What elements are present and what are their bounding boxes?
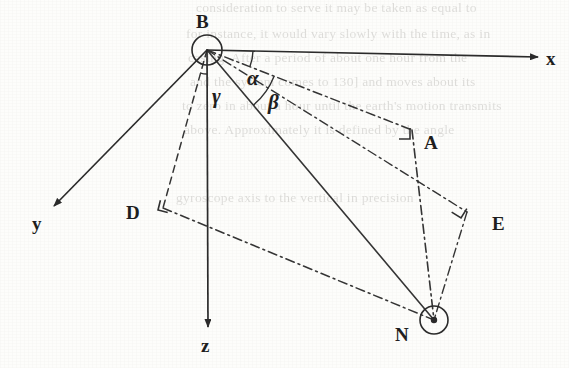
- point-label-a: A: [424, 133, 438, 152]
- right-angle-marker-a: [399, 128, 410, 139]
- z-axis-line: [207, 50, 208, 327]
- diagram-svg: [0, 0, 569, 368]
- point-label-n: N: [395, 325, 409, 344]
- z-axis-label: z: [201, 336, 209, 355]
- x-axis-line: [207, 50, 538, 57]
- angle-label-gamma: γ: [212, 86, 221, 107]
- point-label-e: E: [492, 214, 505, 233]
- point-marker-n-center-dot: [432, 318, 437, 323]
- segment-b-to-d: [163, 50, 207, 208]
- segment-b-to-n: [207, 50, 434, 320]
- angle-arc-gamma: [201, 73, 208, 74]
- segment-b-to-a: [207, 50, 412, 130]
- segment-a-to-n: [412, 130, 434, 320]
- right-angle-marker-e: [452, 209, 467, 218]
- x-axis-label: x: [546, 49, 556, 68]
- y-axis-label: y: [32, 214, 42, 233]
- segment-e-to-n: [434, 212, 467, 320]
- point-label-d: D: [126, 203, 140, 222]
- angle-label-beta: β: [268, 92, 279, 113]
- segment-b-to-e: [207, 50, 467, 212]
- angle-arc-alpha: [250, 51, 253, 67]
- figure-canvas: consideration to serve it may be taken a…: [0, 0, 569, 368]
- point-label-b: B: [196, 12, 209, 31]
- segment-d-to-n: [163, 208, 434, 320]
- angle-label-alpha: α: [247, 68, 259, 89]
- y-axis-line: [54, 50, 207, 206]
